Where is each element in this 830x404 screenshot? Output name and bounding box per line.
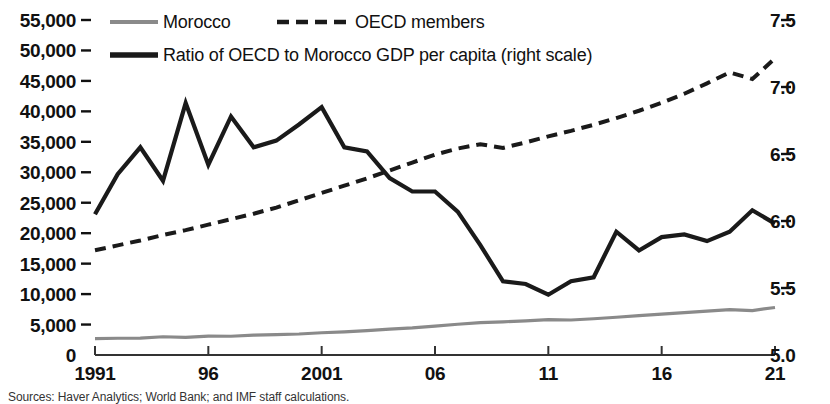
legend-label-morocco: Morocco (163, 13, 231, 31)
left-axis-tick-label: 40,000 (20, 102, 76, 121)
x-axis (95, 346, 775, 355)
left-axis-tick-label: 30,000 (20, 163, 76, 182)
series-line-1 (95, 58, 775, 250)
x-axis-tick-label: 11 (539, 364, 559, 383)
series-line-2 (95, 103, 775, 295)
right-axis-tick-label: 7.5 (770, 11, 796, 30)
right-axis-tick-label: 6.5 (770, 145, 796, 164)
right-axis-tick-label: 5.5 (770, 279, 796, 298)
data-series-group (95, 58, 775, 338)
series-line-0 (95, 307, 775, 338)
source-note: Sources: Haver Analytics; World Bank; an… (8, 391, 349, 404)
left-axis-tick-label: 25,000 (20, 194, 76, 213)
right-axis-tick-label: 6.0 (770, 212, 796, 231)
legend-label-ratio: Ratio of OECD to Morocco GDP per capita … (163, 46, 592, 64)
left-axis-tick-label: 20,000 (20, 224, 76, 243)
left-axis-tick-label: 55,000 (20, 11, 76, 30)
left-axis-tick-label: 15,000 (20, 255, 76, 274)
right-axis-tick-label: 7.0 (770, 78, 796, 97)
left-axis-tick-label: 45,000 (20, 72, 76, 91)
x-axis-tick-label: 06 (425, 364, 446, 383)
left-axis-tick-label: 10,000 (20, 285, 76, 304)
x-axis-tick-label: 21 (765, 364, 786, 383)
x-axis-tick-label: 1991 (74, 364, 115, 383)
x-axis-tick-label: 2001 (301, 364, 342, 383)
left-axis-tick-label: 50,000 (20, 41, 76, 60)
left-axis-tick-label: 35,000 (20, 133, 76, 152)
left-axis-ticks (81, 20, 91, 325)
x-axis-tick-label: 96 (198, 364, 219, 383)
legend-label-oecd-members: OECD members (355, 13, 485, 31)
x-axis-tick-label: 16 (651, 364, 672, 383)
left-axis-tick-label: 5,000 (30, 316, 76, 335)
